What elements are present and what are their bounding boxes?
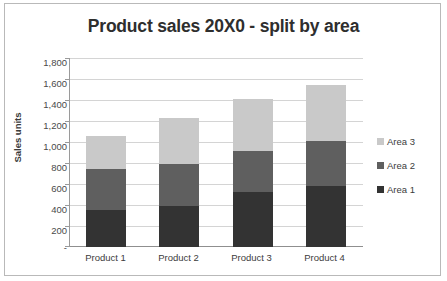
bar-segment [159,206,199,247]
bar-group [86,136,126,247]
y-axis-tick [65,246,70,247]
y-tick-label: 1,400 [43,100,67,110]
bar-segment [86,136,126,170]
bar-segment [159,118,199,164]
bar-group [306,85,346,247]
y-axis-tick [65,58,70,59]
y-tick-label: 1,200 [43,121,67,131]
y-axis-tick-labels: 1,800 1,600 1,400 1,200 1,000 800 600 40… [33,58,67,247]
legend-swatch-icon [377,186,384,193]
y-axis-tick [65,79,70,80]
bar-group [233,99,273,247]
y-tick-label: 200 [51,226,67,236]
y-axis-tick [65,163,70,164]
y-tick-label: 1,000 [43,142,67,152]
y-axis-tick [65,184,70,185]
chart-legend: Area 3 Area 2 Area 1 [377,129,439,201]
x-tick-label: Product 1 [69,252,142,263]
bar-segment [306,141,346,186]
bar-segment [233,99,273,152]
legend-label: Area 2 [387,160,415,171]
gridline [69,79,363,80]
legend-label: Area 1 [387,184,415,195]
y-tick-label: 800 [51,163,67,173]
y-tick-label: 400 [51,205,67,215]
bar-segment [86,210,126,247]
bar-group [159,118,199,247]
plot-area [69,58,363,247]
bar-segment [306,85,346,141]
legend-swatch-icon [377,138,384,145]
chart-container: Product sales 20X0 - split by area Sales… [4,3,441,276]
bar-segment [233,151,273,192]
bar-segment [306,186,346,247]
bar-segment [233,192,273,247]
legend-item-area-3: Area 3 [377,129,439,153]
legend-item-area-1: Area 1 [377,177,439,201]
x-tick-label: Product 4 [288,252,361,263]
y-axis-title: Sales units [12,103,23,173]
legend-swatch-icon [377,162,384,169]
chart-title: Product sales 20X0 - split by area [5,16,442,37]
y-tick-label: 600 [51,184,67,194]
x-tick-label: Product 2 [142,252,215,263]
y-axis-line [69,58,70,247]
y-axis-tick [65,205,70,206]
x-axis-tick-labels: Product 1 Product 2 Product 3 Product 4 [69,252,363,268]
bar-segment [159,164,199,206]
legend-label: Area 3 [387,136,415,147]
y-tick-label: 1,800 [43,58,67,68]
x-tick-label: Product 3 [215,252,288,263]
bar-segment [86,169,126,210]
gridline [69,58,363,59]
y-tick-label: - [64,243,67,253]
y-axis-tick [65,142,70,143]
y-axis-tick [65,121,70,122]
legend-item-area-2: Area 2 [377,153,439,177]
y-tick-label: 1,600 [43,79,67,89]
y-axis-tick [65,226,70,227]
y-axis-tick [65,100,70,101]
